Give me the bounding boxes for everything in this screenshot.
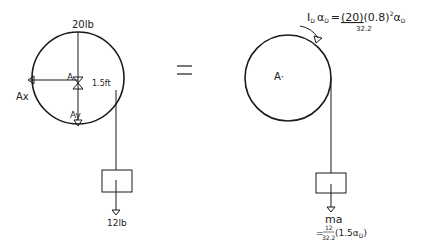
ma-arrowhead-icon bbox=[327, 207, 335, 212]
radius-label: 1.5ft bbox=[92, 79, 111, 88]
free-body-diagram: 20lb A Ax Ay 1.5ft 12lb bbox=[16, 19, 132, 228]
block-weight-arrowhead-icon bbox=[112, 210, 120, 215]
equals-sign bbox=[177, 66, 192, 74]
ay-label: Ay bbox=[70, 110, 82, 120]
pulley-circle-kinetic bbox=[245, 35, 331, 121]
moment-mass-denominator: 32.2 bbox=[356, 25, 372, 33]
diagram-canvas: 20lb A Ax Ay 1.5ft 12lb A· IDαD=(20)(0.8… bbox=[0, 0, 421, 252]
ma-denominator: 32.2 bbox=[322, 234, 336, 241]
moment-arrowhead-icon bbox=[314, 36, 322, 43]
weight-label: 20lb bbox=[72, 19, 94, 30]
kinetic-diagram: A· IDαD=(20)(0.8)2αD 32.2 ma = 12 32.2 (… bbox=[245, 10, 406, 241]
ma-numerator: 12 bbox=[325, 224, 333, 231]
center-label: A· bbox=[274, 71, 284, 82]
block-fbd bbox=[102, 170, 132, 192]
pin-label: A bbox=[67, 72, 74, 82]
ma-term: (1.5αD) bbox=[335, 228, 367, 239]
moment-equation: IDαD=(20)(0.8)2αD bbox=[307, 10, 406, 24]
ax-label: Ax bbox=[16, 91, 29, 102]
block-weight-label: 12lb bbox=[107, 218, 127, 228]
ay-arrowhead-icon bbox=[74, 120, 82, 126]
